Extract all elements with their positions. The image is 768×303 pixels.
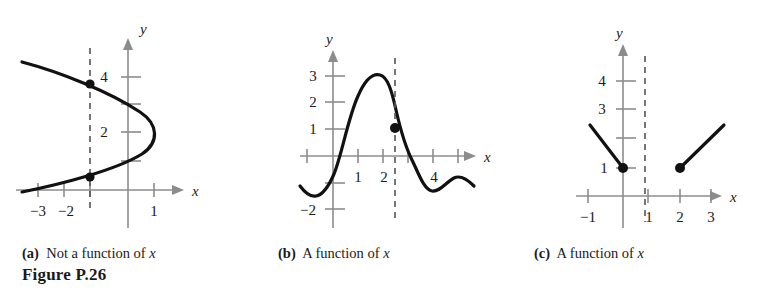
caption-panel-a-variable: x — [149, 245, 155, 261]
panel-a-x-axis — [16, 183, 184, 197]
figure-p26: x y 4 2 −3 −2 1 — [0, 0, 768, 303]
panel-b-x-tick-label-2: 2 — [380, 169, 388, 185]
panel-b-x-tick-label-4: 4 — [430, 169, 438, 185]
panel-b-y-tick-label-3: 3 — [309, 68, 317, 84]
panel-c-y-tick-label-4: 4 — [598, 73, 606, 89]
caption-panel-b-text: A function of — [302, 245, 379, 261]
panel-b-y-axis-label: y — [324, 31, 333, 47]
caption-panel-b: (b) A function of x — [278, 244, 534, 263]
panel-b-graph: x y 3 2 1 −2 1 2 4 — [256, 0, 512, 250]
panel-a-graph: x y 4 2 −3 −2 1 — [0, 0, 256, 250]
panel-a-x-tick-label-neg2: −2 — [58, 203, 74, 219]
panel-c-graph: x y 4 3 1 −1 1 2 3 — [512, 0, 768, 250]
panel-b-x-tick-label-1: 1 — [354, 169, 362, 185]
panel-c-svg: x y 4 3 1 −1 1 2 3 — [512, 0, 768, 250]
panel-a-intersection-point-upper — [85, 79, 94, 88]
caption-panel-b-label: (b) — [278, 245, 296, 261]
caption-panel-b-variable: x — [383, 245, 389, 261]
panel-b-y-axis — [325, 50, 345, 228]
panel-a-intersection-point-lower — [85, 172, 94, 181]
caption-panel-a-text: Not a function of — [46, 245, 145, 261]
caption-panel-a: (a) Not a function of x — [22, 244, 278, 263]
panel-b-x-axis — [300, 149, 476, 163]
panel-c-x-tick-label-3: 3 — [707, 209, 715, 225]
panel-c-endpoint-right — [675, 163, 685, 173]
panel-b-x-axis-label: x — [483, 149, 491, 165]
panel-b-y-tick-label-neg2: −2 — [300, 202, 316, 218]
panel-b-intersection-point — [390, 123, 400, 133]
panel-c-y-tick-label-3: 3 — [598, 101, 606, 117]
caption-panel-c-text: A function of — [557, 245, 634, 261]
panel-a-x-tick-label-neg3: −3 — [30, 203, 46, 219]
caption-panel-c-label: (c) — [534, 245, 550, 261]
panel-b-svg: x y 3 2 1 −2 1 2 4 — [256, 0, 512, 250]
panel-c-endpoint-left — [618, 163, 628, 173]
panel-a-y-tick-label-2: 2 — [100, 124, 108, 140]
panel-c-x-tick-label-1: 1 — [645, 209, 653, 225]
panel-a-x-axis-label: x — [191, 183, 199, 199]
panel-a-y-tick-label-4: 4 — [100, 69, 108, 85]
panel-c-y-axis-label: y — [614, 25, 623, 41]
panel-c-right-segment — [680, 125, 724, 168]
panel-c-x-tick-label-2: 2 — [676, 209, 684, 225]
panel-a-y-axis-label: y — [138, 21, 147, 37]
panel-a-y-axis — [121, 38, 141, 228]
panel-a-x-tick-label-1: 1 — [150, 203, 158, 219]
panel-c-y-axis — [616, 44, 636, 228]
caption-panel-c: (c) A function of x — [534, 244, 768, 263]
caption-panel-c-variable: x — [638, 245, 644, 261]
panel-b-y-tick-label-1: 1 — [309, 121, 317, 137]
panel-c-x-axis — [576, 189, 722, 203]
panel-c-y-tick-label-1: 1 — [600, 160, 608, 176]
caption-panel-a-label: (a) — [22, 245, 39, 261]
panel-c-x-tick-label-neg1: −1 — [580, 209, 596, 225]
panel-a-svg: x y 4 2 −3 −2 1 — [0, 0, 256, 250]
panel-b-y-tick-label-2: 2 — [309, 94, 317, 110]
panel-c-x-axis-label: x — [729, 189, 737, 205]
figure-title: Figure P.26 — [22, 265, 106, 285]
